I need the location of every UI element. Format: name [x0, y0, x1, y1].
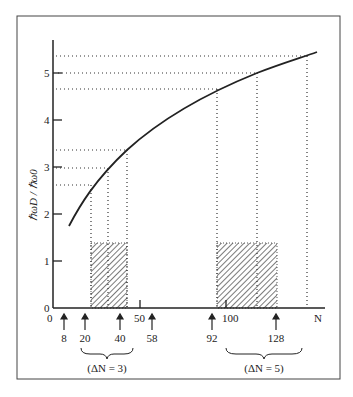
shaded-region-1 — [91, 243, 127, 308]
y-tick-3: 3 — [44, 161, 50, 173]
x-tick-50: 50 — [134, 312, 146, 324]
brace-2 — [226, 348, 302, 359]
diagram: 0 1 2 3 4 5 ℏωD / ℏω0 0 50 100 N 8 20 40… — [0, 0, 353, 397]
arrow-label-40: 40 — [115, 332, 127, 344]
x-tick-N: N — [314, 312, 322, 324]
x-tick-100: 100 — [222, 312, 239, 324]
curve — [69, 52, 317, 226]
arrows — [61, 314, 279, 330]
arrow-label-92: 92 — [207, 332, 218, 344]
y-tick-2: 2 — [44, 208, 50, 220]
shaded-region-2 — [217, 243, 277, 308]
frame — [17, 16, 340, 379]
y-tick-1: 1 — [44, 255, 50, 267]
arrow-label-58: 58 — [147, 332, 159, 344]
y-tick-5: 5 — [44, 67, 50, 79]
arrow-label-20: 20 — [80, 332, 92, 344]
y-tick-4: 4 — [44, 114, 50, 126]
arrow-label-8: 8 — [61, 332, 67, 344]
x-tick-0: 0 — [47, 312, 53, 324]
brace-label-1: (ΔN = 3) — [87, 362, 127, 375]
y-axis-label: ℏωD / ℏω0 — [27, 169, 39, 221]
brace-1 — [81, 348, 133, 359]
y-tick-marks — [53, 73, 62, 261]
arrow-label-128: 128 — [268, 332, 285, 344]
dotted-levels — [56, 56, 307, 185]
brace-label-2: (ΔN = 5) — [244, 362, 284, 375]
